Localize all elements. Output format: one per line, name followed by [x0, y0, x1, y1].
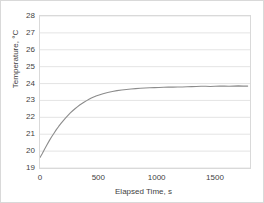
x-tick-label: 0	[20, 173, 60, 183]
chart-figure: Temperature, °C 19202122232425262728 050…	[0, 0, 264, 203]
x-tick-label: 1500	[195, 173, 235, 183]
x-tick-label: 500	[78, 173, 118, 183]
x-tick-label: 1000	[137, 173, 177, 183]
x-axis-tick-labels: 050010001500	[1, 1, 264, 203]
x-axis-title: Elapsed Time, s	[31, 187, 256, 196]
